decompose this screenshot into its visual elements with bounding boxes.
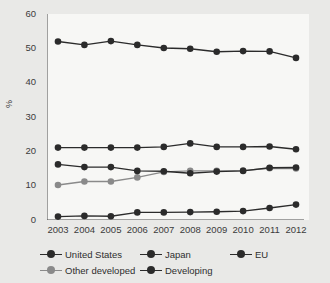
data-point bbox=[161, 144, 168, 151]
series-line bbox=[58, 164, 296, 173]
data-point bbox=[134, 144, 141, 151]
legend-label: Other developed bbox=[65, 265, 135, 276]
series-line bbox=[58, 168, 296, 185]
legend-item-developing[interactable]: Developing bbox=[140, 265, 230, 276]
legend-label: EU bbox=[255, 249, 268, 260]
data-point bbox=[266, 48, 273, 55]
data-point bbox=[266, 165, 273, 172]
data-point bbox=[81, 164, 88, 171]
legend-item-united-states[interactable]: United States bbox=[40, 249, 140, 260]
legend-marker-icon bbox=[40, 249, 62, 260]
y-tick-label: 10 bbox=[8, 179, 36, 190]
data-point bbox=[134, 42, 141, 49]
data-point bbox=[293, 55, 300, 62]
data-point bbox=[81, 144, 88, 151]
legend-marker-icon bbox=[140, 265, 162, 276]
series-line bbox=[58, 41, 296, 58]
y-tick-label: 30 bbox=[8, 111, 36, 122]
data-point bbox=[213, 49, 220, 56]
legend-item-japan[interactable]: Japan bbox=[140, 249, 230, 260]
data-point bbox=[266, 205, 273, 212]
data-point bbox=[55, 213, 62, 220]
data-point bbox=[134, 209, 141, 216]
legend-row: Other developedDeveloping bbox=[40, 262, 300, 278]
data-point bbox=[161, 45, 168, 52]
legend-item-eu[interactable]: EU bbox=[230, 249, 300, 260]
legend-marker-icon bbox=[140, 249, 162, 260]
data-point bbox=[187, 209, 194, 216]
data-point bbox=[55, 38, 62, 45]
data-point bbox=[108, 213, 115, 220]
data-point bbox=[293, 146, 300, 153]
legend-marker-icon bbox=[40, 265, 62, 276]
series-developing bbox=[55, 201, 300, 220]
data-point bbox=[81, 178, 88, 185]
data-point bbox=[134, 174, 141, 181]
y-tick-label: 50 bbox=[8, 42, 36, 53]
series-eu bbox=[55, 38, 300, 61]
legend-row: United StatesJapanEU bbox=[40, 246, 300, 262]
chart-figure: % 0102030405060 200320042005200620072008… bbox=[0, 0, 330, 283]
chart-legend: United StatesJapanEUOther developedDevel… bbox=[40, 246, 300, 278]
series-line bbox=[58, 205, 296, 217]
data-point bbox=[134, 168, 141, 175]
chart-svg bbox=[47, 14, 309, 220]
series-united-states bbox=[55, 161, 300, 177]
data-point bbox=[240, 208, 247, 215]
series-japan bbox=[55, 140, 300, 153]
data-point bbox=[213, 209, 220, 216]
data-point bbox=[81, 42, 88, 49]
data-point bbox=[187, 45, 194, 52]
legend-item-other-developed[interactable]: Other developed bbox=[40, 265, 140, 276]
data-point bbox=[293, 164, 300, 171]
data-point bbox=[213, 168, 220, 175]
y-tick-label: 40 bbox=[8, 76, 36, 87]
data-point bbox=[266, 143, 273, 150]
data-point bbox=[108, 144, 115, 151]
legend-label: United States bbox=[65, 249, 122, 260]
data-point bbox=[55, 161, 62, 168]
data-point bbox=[187, 140, 194, 147]
y-axis-label: % bbox=[4, 100, 14, 108]
legend-marker-icon bbox=[230, 249, 252, 260]
data-point bbox=[108, 178, 115, 185]
plot-area bbox=[47, 14, 309, 220]
data-point bbox=[240, 48, 247, 55]
y-tick-label: 20 bbox=[8, 145, 36, 156]
data-point bbox=[240, 168, 247, 175]
y-tick-label: 60 bbox=[8, 8, 36, 19]
data-point bbox=[161, 209, 168, 216]
legend-label: Japan bbox=[165, 249, 191, 260]
data-point bbox=[187, 170, 194, 177]
data-point bbox=[213, 144, 220, 151]
data-point bbox=[293, 201, 300, 208]
legend-label: Developing bbox=[165, 265, 213, 276]
data-point bbox=[55, 144, 62, 151]
y-tick-label: 0 bbox=[8, 214, 36, 225]
data-point bbox=[108, 38, 115, 45]
data-point bbox=[161, 168, 168, 175]
data-point bbox=[108, 164, 115, 171]
data-point bbox=[55, 182, 62, 189]
data-point bbox=[240, 144, 247, 151]
x-tick-label: 2012 bbox=[281, 224, 311, 235]
series-line bbox=[58, 143, 296, 149]
data-point bbox=[81, 213, 88, 220]
